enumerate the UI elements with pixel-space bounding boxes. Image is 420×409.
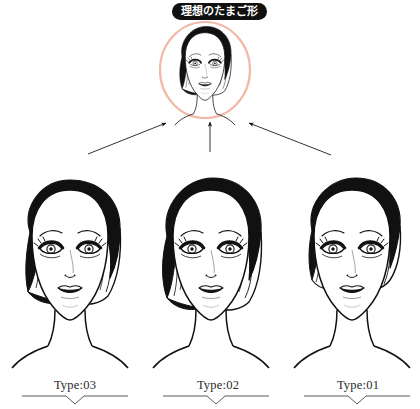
arrow-group xyxy=(88,122,331,155)
face-type02 xyxy=(153,178,269,368)
face-type03 xyxy=(12,180,128,368)
ideal-egg-shape-face xyxy=(175,26,235,125)
type-underline-03 xyxy=(22,396,128,404)
type-underline-02 xyxy=(163,396,269,404)
illustration-stage xyxy=(0,0,420,409)
face-shapes-diagram xyxy=(0,0,420,409)
arrow-from-type01 xyxy=(249,123,331,155)
ideal-shape-badge: 理想のたまご形 xyxy=(172,3,267,20)
ideal-shape-group xyxy=(160,22,250,125)
type-label-03: Type:03 xyxy=(5,378,145,393)
type-label-01: Type:01 xyxy=(288,378,420,393)
arrow-from-type03 xyxy=(88,123,166,154)
type-underline-01 xyxy=(304,396,410,404)
type-underline-group xyxy=(22,396,410,404)
type-label-02: Type:02 xyxy=(148,378,288,393)
face-type01 xyxy=(294,178,410,368)
